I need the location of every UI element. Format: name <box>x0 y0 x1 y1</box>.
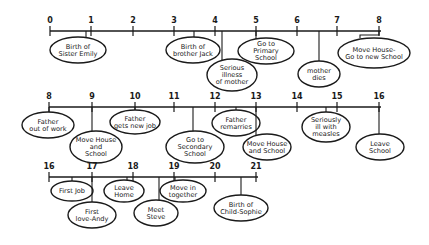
event-bubble: motherdies <box>298 31 340 87</box>
event-bubble: Move intogether <box>160 177 206 202</box>
event-label: School <box>369 147 391 155</box>
tick-label: 10 <box>129 92 141 101</box>
event-label: School <box>184 150 206 158</box>
event-bubble: Fatherremarries <box>212 107 260 136</box>
event-bubble: Seriouslyill withmeasles <box>302 107 350 142</box>
event-bubble: Go toSecondarySchool <box>166 107 224 163</box>
event-label: School <box>85 150 107 158</box>
life-timeline-diagram: 012345678Birth ofSister EmilyBirth ofbro… <box>0 0 429 245</box>
tick-label: 6 <box>294 16 300 25</box>
event-label: Child-Sophie <box>220 208 262 216</box>
tick-label: 21 <box>250 162 262 171</box>
event-bubble: LeaveHome <box>104 177 144 202</box>
event-bubble: Birth ofSister Emily <box>50 31 106 63</box>
event-bubble: Fathergets new job <box>110 107 160 134</box>
event-bubble: Go toPrimarySchool <box>238 31 294 64</box>
tick-label: 7 <box>334 16 340 25</box>
event-label: of mother <box>216 78 249 86</box>
event-bubble: First Job <box>51 177 93 201</box>
event-label: School <box>255 54 277 62</box>
event-label: brother Jack <box>173 50 213 58</box>
event-label: Steve <box>147 213 166 221</box>
event-label: dies <box>312 74 326 82</box>
event-label: love-Andy <box>76 215 109 223</box>
event-label: Sister Emily <box>58 50 97 58</box>
tick-label: 8 <box>376 16 382 25</box>
tick-label: 8 <box>46 92 52 101</box>
event-bubble: Birth ofChild-Sophie <box>214 177 268 221</box>
event-connector <box>360 31 379 38</box>
tick-label: 17 <box>86 162 97 171</box>
event-label: and School <box>249 147 286 155</box>
tick-label: 0 <box>47 16 53 25</box>
tick-label: 15 <box>331 92 343 101</box>
tick-label: 11 <box>168 92 180 101</box>
timeline-row-1: 012345678Birth ofSister EmilyBirth ofbro… <box>47 16 410 91</box>
timeline-row-2: 8910111213141516Fatherout of workMove Ho… <box>22 92 404 163</box>
event-label: remarries <box>220 123 252 131</box>
event-label: gets new job <box>114 122 156 130</box>
event-label: Go to new School <box>345 53 403 61</box>
tick-label: 14 <box>291 92 303 101</box>
timeline-row-3: 161718192021First JobFirstlove-AndyLeave… <box>43 162 268 228</box>
tick-label: 12 <box>209 92 220 101</box>
tick-label: 3 <box>171 16 177 25</box>
timeline-rows: 012345678Birth ofSister EmilyBirth ofbro… <box>22 16 410 228</box>
tick-label: 4 <box>212 16 218 25</box>
event-bubble: Fatherout of work <box>22 107 74 138</box>
tick-label: 16 <box>43 162 55 171</box>
event-label: together <box>169 191 198 199</box>
event-label: First Job <box>59 187 85 195</box>
tick-label: 20 <box>209 162 221 171</box>
tick-label: 2 <box>130 16 136 25</box>
event-bubble: LeaveSchool <box>356 107 404 160</box>
event-label: out of work <box>29 125 66 133</box>
tick-label: 19 <box>168 162 180 171</box>
tick-label: 18 <box>127 162 139 171</box>
tick-label: 9 <box>89 92 95 101</box>
tick-label: 5 <box>253 16 259 25</box>
tick-label: 1 <box>88 16 94 25</box>
tick-label: 16 <box>373 92 385 101</box>
event-bubble: Move House-Go to new School <box>338 31 410 68</box>
event-label: measles <box>312 130 340 138</box>
tick-label: 13 <box>250 92 261 101</box>
event-label: Home <box>114 191 133 199</box>
